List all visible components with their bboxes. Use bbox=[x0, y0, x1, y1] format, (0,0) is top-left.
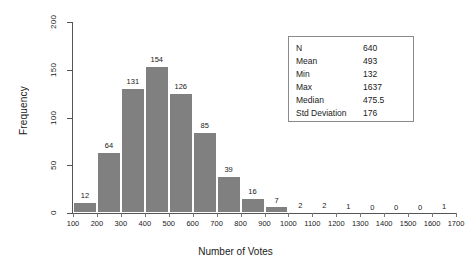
bar-group: 7 bbox=[265, 22, 289, 213]
statistics-value: 493 bbox=[363, 55, 413, 68]
bar-group: 39 bbox=[217, 22, 241, 213]
y-tick-label: 200 bbox=[50, 10, 58, 34]
histogram-bar bbox=[265, 206, 289, 213]
histogram-bar bbox=[217, 176, 241, 213]
statistics-key: Max bbox=[296, 81, 363, 94]
x-tick-mark bbox=[288, 213, 289, 217]
bar-value-label: 2 bbox=[298, 202, 302, 210]
y-tick-label: 0 bbox=[50, 201, 58, 225]
bar-group: 64 bbox=[97, 22, 121, 213]
histogram-chart: Frequency Number of Votes 050100150200 1… bbox=[0, 0, 471, 268]
histogram-bar bbox=[73, 202, 97, 213]
x-tick-mark bbox=[408, 213, 409, 217]
statistics-row: Median475.5 bbox=[296, 94, 413, 107]
bar-value-label: 39 bbox=[224, 166, 232, 174]
statistics-value: 1637 bbox=[363, 81, 413, 94]
bar-group: 131 bbox=[121, 22, 145, 213]
bar-value-label: 64 bbox=[105, 142, 113, 150]
statistics-value: 640 bbox=[363, 42, 413, 55]
bar-group: 126 bbox=[169, 22, 193, 213]
histogram-bar bbox=[121, 88, 145, 213]
statistics-value: 176 bbox=[363, 107, 413, 120]
statistics-row: N640 bbox=[296, 42, 413, 55]
y-tick-label: 100 bbox=[50, 106, 58, 130]
x-tick-mark bbox=[456, 213, 457, 217]
x-tick-mark bbox=[121, 213, 122, 217]
x-tick-mark bbox=[360, 213, 361, 217]
statistics-key: Median bbox=[296, 94, 363, 107]
bar-group: 1 bbox=[432, 22, 456, 213]
bar-value-label: 0 bbox=[394, 204, 398, 212]
x-tick-mark bbox=[241, 213, 242, 217]
statistics-row: Mean493 bbox=[296, 55, 413, 68]
x-tick-label: 1700 bbox=[441, 220, 471, 228]
bar-group: 12 bbox=[73, 22, 97, 213]
y-tick-label: 50 bbox=[50, 153, 58, 177]
statistics-value: 132 bbox=[363, 68, 413, 81]
histogram-bar bbox=[288, 211, 312, 213]
x-tick-mark bbox=[432, 213, 433, 217]
histogram-bar bbox=[169, 93, 193, 213]
bar-value-label: 85 bbox=[200, 122, 208, 130]
bar-group: 85 bbox=[193, 22, 217, 213]
x-axis-title: Number of Votes bbox=[0, 246, 471, 257]
x-tick-mark bbox=[217, 213, 218, 217]
bar-value-label: 7 bbox=[274, 197, 278, 205]
x-tick-mark bbox=[169, 213, 170, 217]
statistics-box: N640Mean493Min132Max1637Median475.5Std D… bbox=[288, 36, 414, 122]
histogram-bar bbox=[97, 152, 121, 213]
bar-group: 16 bbox=[241, 22, 265, 213]
bar-value-label: 16 bbox=[248, 188, 256, 196]
x-tick-mark bbox=[145, 213, 146, 217]
histogram-bar bbox=[193, 132, 217, 213]
bar-value-label: 12 bbox=[81, 192, 89, 200]
x-tick-mark bbox=[384, 213, 385, 217]
statistics-key: Std Deviation bbox=[296, 107, 363, 120]
bar-value-label: 126 bbox=[174, 83, 187, 91]
statistics-row: Std Deviation176 bbox=[296, 107, 413, 120]
x-tick-mark bbox=[97, 213, 98, 217]
statistics-key: N bbox=[296, 42, 363, 55]
statistics-key: Min bbox=[296, 68, 363, 81]
histogram-bar bbox=[432, 211, 456, 213]
statistics-key: Mean bbox=[296, 55, 363, 68]
x-tick-mark bbox=[265, 213, 266, 217]
bar-value-label: 2 bbox=[322, 202, 326, 210]
bar-value-label: 131 bbox=[127, 78, 140, 86]
y-tick-label: 150 bbox=[50, 58, 58, 82]
bar-value-label: 0 bbox=[370, 204, 374, 212]
histogram-bar bbox=[312, 211, 336, 213]
histogram-bar bbox=[336, 211, 360, 213]
bar-value-label: 0 bbox=[418, 204, 422, 212]
y-axis-title: Frequency bbox=[18, 86, 29, 135]
bar-value-label: 1 bbox=[346, 203, 350, 211]
x-tick-mark bbox=[73, 213, 74, 217]
statistics-value: 475.5 bbox=[363, 94, 413, 107]
statistics-row: Min132 bbox=[296, 68, 413, 81]
x-tick-mark bbox=[312, 213, 313, 217]
bar-value-label: 154 bbox=[151, 56, 164, 64]
bar-group: 154 bbox=[145, 22, 169, 213]
bar-value-label: 1 bbox=[442, 203, 446, 211]
statistics-row: Max1637 bbox=[296, 81, 413, 94]
histogram-bar bbox=[145, 66, 169, 213]
x-tick-mark bbox=[193, 213, 194, 217]
x-tick-mark bbox=[336, 213, 337, 217]
histogram-bar bbox=[241, 198, 265, 213]
